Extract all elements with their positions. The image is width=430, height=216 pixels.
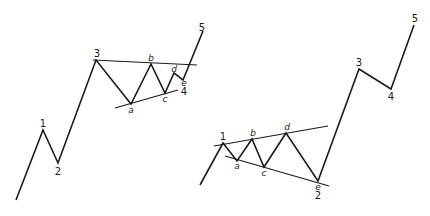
triangle-in-wave-2-panel: 1abcde2345 — [200, 13, 418, 201]
lower-trendline — [225, 156, 329, 186]
wave-label-a: a — [128, 105, 134, 115]
wave-label-1: 1 — [40, 118, 46, 129]
wave-label-3: 3 — [94, 48, 100, 59]
wave-label-a: a — [234, 161, 240, 171]
wave-label-4: 4 — [181, 86, 187, 97]
wave-label-c: c — [163, 94, 168, 104]
wave-path — [200, 25, 414, 185]
wave-label-2: 2 — [315, 190, 321, 201]
wave-label-1: 1 — [220, 131, 226, 142]
wave-label-5: 5 — [412, 13, 418, 24]
elliott-wave-diagram: 123abcde45 1abcde2345 — [0, 0, 430, 216]
wave-label-b: b — [250, 128, 256, 138]
lower-trendline — [115, 90, 178, 108]
wave-path — [16, 31, 203, 200]
wave-label-d: d — [171, 64, 177, 74]
upper-trendline — [93, 60, 197, 65]
wave-label-3: 3 — [356, 57, 362, 68]
triangle-in-wave-4-panel: 123abcde45 — [16, 22, 205, 200]
wave-label-b: b — [148, 53, 154, 63]
wave-label-4: 4 — [388, 91, 394, 102]
wave-label-d: d — [284, 122, 290, 132]
wave-label-5: 5 — [199, 22, 205, 33]
upper-trendline — [214, 126, 328, 146]
wave-label-2: 2 — [55, 166, 61, 177]
wave-label-c: c — [262, 168, 267, 178]
